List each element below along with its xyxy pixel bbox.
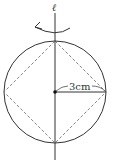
axis-label: ℓ <box>52 2 56 13</box>
radius-label: 3cm <box>69 81 91 92</box>
rotation-arrow-icon <box>35 22 70 33</box>
rotation-diagram: ℓ 3cm <box>0 0 114 163</box>
